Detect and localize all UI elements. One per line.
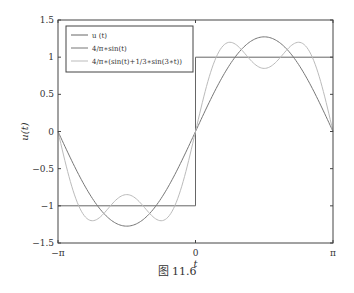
chart: 1.510.50−0.5−1−1.5−π0πtu(t)u (t)4/π∗sin(…: [0, 0, 354, 293]
y-tick-label: −1.5: [32, 238, 54, 248]
y-tick-label: 1: [48, 52, 54, 62]
y-tick-label: −1: [41, 201, 54, 211]
y-tick-label: −0.5: [32, 164, 54, 174]
x-tick-label: −π: [51, 248, 65, 258]
legend-label: u (t): [92, 32, 107, 40]
y-tick-label: 0.5: [40, 89, 55, 99]
y-axis-label: u(t): [19, 122, 30, 140]
x-tick-label: 0: [193, 248, 199, 258]
legend-label: 4/π∗sin(t): [92, 45, 127, 53]
y-tick-label: 0: [48, 127, 54, 137]
figure-caption: 图 11.6: [0, 262, 354, 278]
y-tick-label: 1.5: [40, 15, 55, 25]
x-tick-label: π: [330, 248, 336, 258]
legend-label: 4/π∗(sin(t)+1/3∗sin(3∗t)): [92, 58, 182, 66]
